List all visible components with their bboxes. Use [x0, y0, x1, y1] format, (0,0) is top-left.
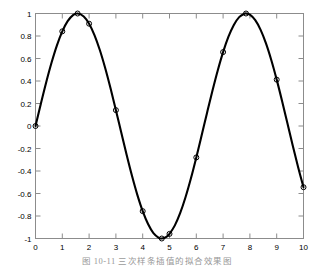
- y-axis-tick-labels: -1-0.8-0.6-0.4-0.200.20.40.60.81: [18, 10, 32, 244]
- x-tick-label: 8: [248, 243, 253, 252]
- x-tick-label: 9: [274, 243, 279, 252]
- x-tick-label: 7: [221, 243, 226, 252]
- y-tick-marks: [36, 14, 304, 239]
- y-tick-label: -0.8: [18, 212, 32, 221]
- x-tick-label: 1: [60, 243, 65, 252]
- x-tick-label: 5: [167, 243, 172, 252]
- y-tick-label: -0.2: [18, 145, 32, 154]
- x-tick-label: 10: [299, 243, 308, 252]
- y-tick-label: 0.6: [20, 55, 32, 64]
- y-tick-label: 0.2: [20, 100, 32, 109]
- axes-frame: [36, 14, 304, 239]
- y-tick-label: 0: [27, 122, 32, 131]
- x-tick-label: 4: [140, 243, 145, 252]
- x-tick-label: 6: [194, 243, 199, 252]
- y-tick-label: -0.4: [18, 167, 32, 176]
- x-tick-label: 2: [87, 243, 92, 252]
- x-tick-marks: [36, 14, 304, 239]
- figure-caption: 图 10-11 三次样条插值的拟合效果图: [0, 254, 314, 266]
- figure-container: 012345678910 -1-0.8-0.6-0.4-0.200.20.40.…: [0, 0, 314, 266]
- data-marker-group: [33, 11, 306, 241]
- sine-plot: 012345678910 -1-0.8-0.6-0.4-0.200.20.40.…: [0, 0, 314, 266]
- spline-curve-path: [36, 13, 304, 238]
- y-tick-label: -1: [24, 235, 32, 244]
- y-tick-label: 0.8: [20, 32, 32, 41]
- x-tick-label: 0: [33, 243, 38, 252]
- x-axis-tick-labels: 012345678910: [33, 243, 308, 252]
- y-tick-label: 1: [27, 10, 32, 19]
- y-tick-label: 0.4: [20, 77, 32, 86]
- data-curve-group: [36, 13, 304, 238]
- x-tick-label: 3: [114, 243, 119, 252]
- y-tick-label: -0.6: [18, 190, 32, 199]
